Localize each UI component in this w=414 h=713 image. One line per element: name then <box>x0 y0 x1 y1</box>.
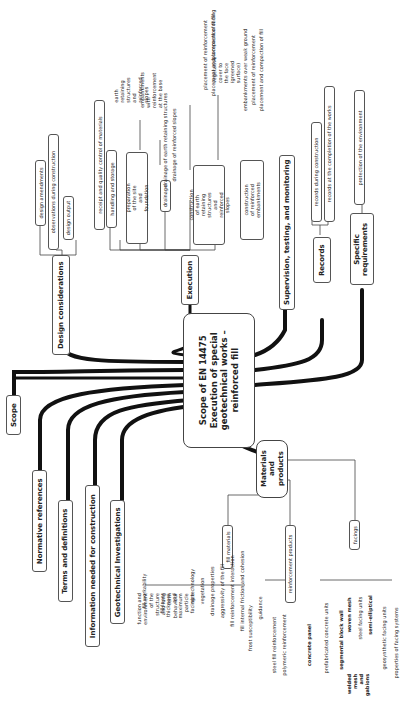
leaf-welded-mesh-gabions: welded mesh and gabions <box>348 660 368 710</box>
central-topic-label: Scope of EN 14475 Execution of special g… <box>198 330 241 430</box>
facings[interactable]: facings <box>349 520 360 550</box>
records-during-construction[interactable]: records during construction <box>311 122 322 222</box>
central-topic[interactable]: Scope of EN 14475 Execution of special g… <box>183 313 255 448</box>
leaf-facing-technology: facing technology <box>189 569 195 614</box>
leaf-steel-fill-reinforcement: steel fill reinforcement <box>270 585 278 705</box>
exec-preparation-site[interactable]: preparation of the site and foundation <box>126 152 148 244</box>
leaf-concrete-panel: concrete panel <box>305 610 313 680</box>
branch-records[interactable]: Records <box>313 237 331 283</box>
leaf-aggressivity: aggressivity of the fill <box>219 564 225 618</box>
exec-prep-embankments: embankments with reinforcement at the ba… <box>140 40 162 140</box>
leaf-vegetation: vegetation <box>199 578 205 605</box>
branch-terms-and-definitions[interactable]: Terms and definitions <box>58 500 73 602</box>
leaf-semi-elliptical: semi-elliptical <box>366 585 374 645</box>
leaf-guidance: guidance <box>256 588 264 628</box>
exec-vegetative-cover: vegetative cover to the face (greened su… <box>216 30 236 110</box>
records-at-completion[interactable]: records at the completion of the works <box>324 86 335 222</box>
leaf-steel-facing-units: steel facing units <box>356 583 364 653</box>
leaf-polymeric-reinforcement: polymeric reinforcement <box>280 585 288 705</box>
exec-placement-compaction-2: placement and compaction of fill <box>256 20 266 120</box>
branch-specific-requirements[interactable]: Specific requirements <box>350 213 374 285</box>
leaf-geosynthetic-facing-units: geosynthetic facing units <box>380 583 388 693</box>
specific-protection-environment[interactable]: protection of the environment <box>354 90 365 205</box>
fill-materials-leaves: fill workability function and environmen… <box>140 588 250 708</box>
leaf-woven-mesh: woven mesh <box>345 590 353 640</box>
design-observations[interactable]: observations during construction <box>48 134 59 250</box>
leaf-frost-susceptibility: frost susceptibility <box>246 588 254 668</box>
exec-construction-earth-retaining[interactable]: construction of earth retaining structur… <box>193 165 225 245</box>
leaf-drainage-properties: drainage properties <box>209 566 215 615</box>
design-output[interactable]: design output <box>63 196 74 240</box>
branch-execution[interactable]: Execution <box>181 255 199 305</box>
branch-information-needed[interactable]: Information needed for construction <box>85 485 100 647</box>
exec-construction-embankments[interactable]: construction of reinforced embankments <box>240 160 264 240</box>
exec-receipt-quality-control[interactable]: receipt and quality control of materials <box>94 100 105 230</box>
leaf-fill-reinforcement-interaction: fill reinforcement interaction <box>229 555 235 626</box>
branch-materials-products[interactable]: Materials and products <box>256 440 288 498</box>
branch-supervision[interactable]: Supervision, testing, and monitoring <box>279 155 295 310</box>
leaf-segmental-block-wall: segmental block wall <box>337 600 345 680</box>
exec-handling-storage[interactable]: handling and storage <box>106 150 117 228</box>
leaf-prefabricated-concrete-units: prefabricated concrete units <box>322 583 330 693</box>
branch-design-considerations[interactable]: Design considerations <box>52 255 70 355</box>
branch-scope[interactable]: Scope <box>6 395 21 435</box>
branch-geotechnical-investigations[interactable]: Geotechnical Investigations <box>110 500 125 624</box>
leaf-internal-friction: fill internal friction and cohesion <box>239 551 245 632</box>
exec-drainage-slopes: drainage of reinforced slopes <box>168 110 178 180</box>
design-amendments[interactable]: design amendments <box>35 160 46 226</box>
leaf-properties-facing-systems: properties of facing systems <box>392 583 400 703</box>
branch-normative-references[interactable]: Normative references <box>32 470 47 572</box>
